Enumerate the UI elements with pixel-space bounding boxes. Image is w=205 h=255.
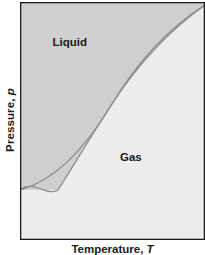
region-label-liquid: Liquid (52, 36, 87, 48)
x-axis-label: Temperature, T (20, 243, 205, 255)
region-label-gas: Gas (120, 151, 142, 163)
y-axis-label-symbol: p (4, 88, 16, 95)
x-axis-label-symbol: T (147, 243, 154, 255)
x-axis-label-text: Temperature, (71, 243, 146, 255)
y-axis-label: Pressure, p (0, 0, 19, 240)
plot-area: Liquid Gas (20, 2, 205, 240)
y-axis-label-text: Pressure, (4, 95, 16, 152)
